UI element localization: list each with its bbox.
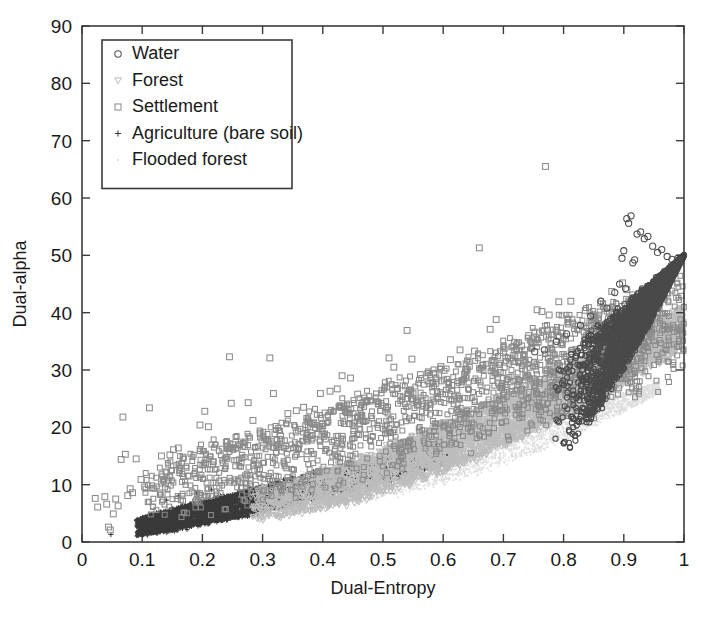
legend[interactable]: WaterForestSettlementAgriculture (bare s…: [102, 40, 303, 189]
y-tick-label: 50: [51, 245, 72, 266]
x-tick-label: 0.2: [189, 549, 215, 570]
legend-label: Settlement: [132, 96, 218, 116]
x-tick-label: 0.3: [249, 549, 275, 570]
y-tick-label: 70: [51, 131, 72, 152]
legend-label: Agriculture (bare soil): [132, 123, 303, 143]
legend-marker-dot-icon: [117, 159, 119, 161]
x-tick-label: 0.1: [129, 549, 155, 570]
x-tick-label: 0: [77, 549, 88, 570]
x-axis-title: Dual-Entropy: [330, 578, 435, 598]
x-tick-label: 1: [679, 549, 690, 570]
y-axis-title: Dual-alpha: [10, 239, 30, 327]
y-tick-label: 80: [51, 73, 72, 94]
x-tick-label: 0.6: [430, 549, 456, 570]
x-tick-label: 0.8: [550, 549, 576, 570]
y-tick-label: 20: [51, 417, 72, 438]
x-tick-label: 0.7: [490, 549, 516, 570]
y-tick-label: 30: [51, 360, 72, 381]
scatter-plot-figure: 00.10.20.30.40.50.60.70.80.9101020304050…: [0, 0, 713, 619]
legend-label: Forest: [132, 70, 183, 90]
y-tick-label: 90: [51, 16, 72, 37]
legend-item-agriculture-bare-soil[interactable]: Agriculture (bare soil): [115, 123, 303, 143]
legend-item-flooded-forest[interactable]: Flooded forest: [117, 149, 247, 169]
legend-label: Water: [132, 43, 179, 63]
x-tick-label: 0.5: [370, 549, 396, 570]
x-tick-label: 0.9: [611, 549, 637, 570]
y-tick-label: 0: [61, 532, 72, 553]
plot-canvas: 00.10.20.30.40.50.60.70.80.9101020304050…: [0, 0, 713, 619]
data-points-layer: [92, 164, 686, 538]
y-tick-label: 10: [51, 475, 72, 496]
legend-label: Flooded forest: [132, 149, 247, 169]
y-tick-label: 60: [51, 188, 72, 209]
x-tick-label: 0.4: [310, 549, 337, 570]
y-tick-label: 40: [51, 303, 72, 324]
